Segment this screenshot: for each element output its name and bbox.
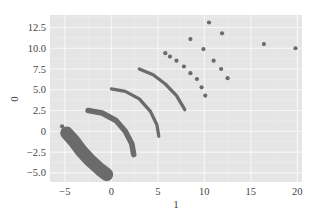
y-axis-ticks: −5.0−2.502.55.07.510.012.5 [27, 22, 46, 178]
x-axis-label: 1 [173, 198, 179, 210]
x-tick-label: 10 [199, 186, 210, 197]
y-tick-label: 2.5 [33, 105, 46, 116]
x-tick-label: −5 [59, 186, 70, 197]
y-tick-label: −2.5 [27, 147, 46, 158]
x-tick-label: 0 [109, 186, 114, 197]
y-tick-label: 0 [41, 126, 46, 137]
y-tick-label: 10.0 [28, 43, 46, 54]
x-axis-ticks: −505101520 [59, 186, 302, 197]
y-tick-label: −5.0 [27, 167, 46, 178]
y-tick-label: 5.0 [33, 84, 46, 95]
y-axis-label: 0 [8, 96, 20, 102]
scatter-chart: −505101520 −5.0−2.502.55.07.510.012.5 1 … [0, 0, 315, 220]
x-tick-label: 15 [246, 186, 257, 197]
y-tick-label: 12.5 [28, 22, 46, 33]
x-tick-label: 20 [292, 186, 303, 197]
x-tick-label: 5 [155, 186, 160, 197]
y-tick-label: 7.5 [33, 64, 46, 75]
